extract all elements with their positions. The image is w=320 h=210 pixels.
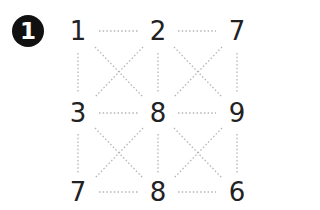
grid-cell-r3c1: 7	[63, 177, 93, 207]
grid-cell-r3c2: 8	[143, 177, 173, 207]
grid-cell-r1c1: 1	[63, 16, 93, 46]
grid-cell-r1c3: 7	[222, 16, 252, 46]
grid-cell-r2c3: 9	[222, 98, 252, 128]
grid-cell-r2c2: 8	[143, 98, 173, 128]
grid-cell-r1c2: 2	[143, 16, 173, 46]
grid-cell-r3c3: 6	[222, 177, 252, 207]
grid-cell-r2c1: 3	[63, 98, 93, 128]
